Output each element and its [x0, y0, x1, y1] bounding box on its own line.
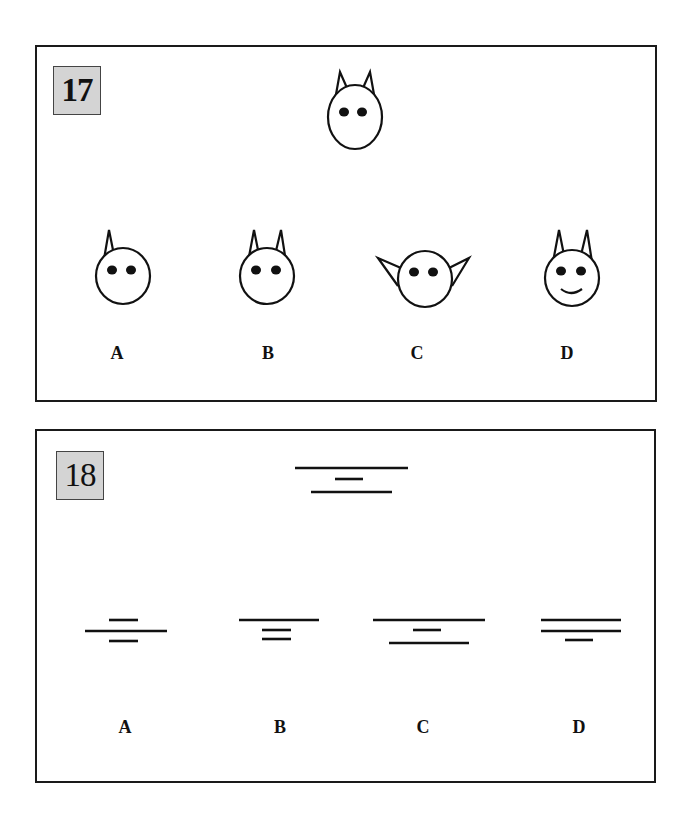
- puzzle-18-option-d-label[interactable]: D: [573, 717, 586, 738]
- puzzle-18-target-figure: [295, 468, 408, 492]
- puzzle-18-option-d-figure[interactable]: [541, 620, 621, 640]
- puzzle-18-option-a-label[interactable]: A: [119, 717, 132, 738]
- puzzle-18-option-b-label[interactable]: B: [274, 717, 286, 738]
- puzzle-18-option-c-label[interactable]: C: [417, 717, 430, 738]
- puzzle-18-option-c-figure[interactable]: [373, 620, 485, 643]
- puzzle-18-option-a-figure[interactable]: [85, 620, 167, 641]
- puzzle-18-option-b-figure[interactable]: [239, 620, 319, 639]
- puzzle-18-figures: [0, 0, 691, 827]
